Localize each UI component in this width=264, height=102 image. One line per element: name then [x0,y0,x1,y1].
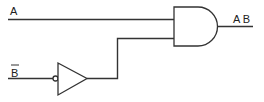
output-label: A B [233,13,250,25]
and-gate [174,7,218,46]
input-a-label: A [10,5,18,17]
inverter-bubble [53,76,58,81]
input-b-bar-label: B [11,67,18,79]
inverter-to-and-wire [87,39,174,79]
not-gate [58,63,87,95]
logic-circuit-diagram: A A B B [0,0,264,102]
